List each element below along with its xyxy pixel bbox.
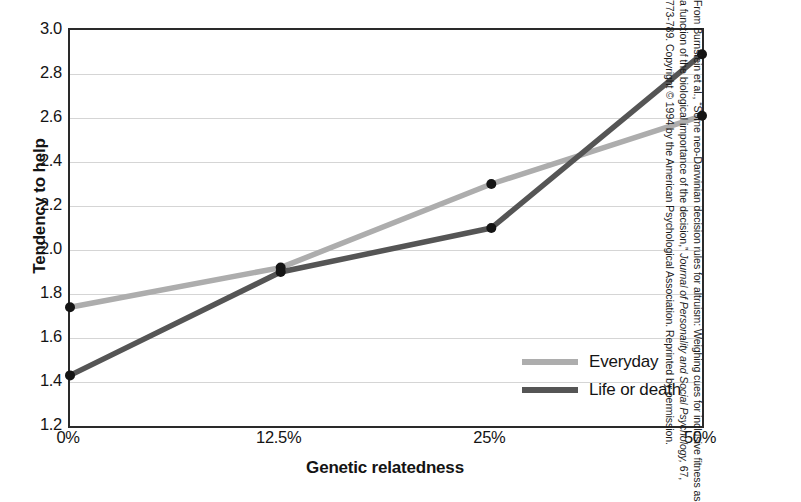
- y-tick-label: 2.6: [18, 108, 62, 125]
- y-tick-label: 2.8: [18, 64, 62, 81]
- data-point-marker: [65, 370, 75, 380]
- y-tick-label: 1.4: [18, 372, 62, 389]
- source-credit-note: From Burnstein et al., “Some neo-Darwini…: [613, 0, 705, 502]
- data-point-marker: [486, 179, 496, 189]
- y-tick-label: 3.0: [18, 20, 62, 37]
- legend-swatch-icon: [522, 387, 578, 393]
- data-point-marker: [65, 302, 75, 312]
- y-axis-tick-labels: 3.02.82.62.42.22.01.81.61.41.2: [18, 28, 62, 424]
- x-tick-label: 0%: [8, 428, 128, 447]
- y-tick-label: 2.4: [18, 152, 62, 169]
- data-point-marker: [276, 267, 286, 277]
- data-point-marker: [486, 223, 496, 233]
- credit-line-2b: Journal: [678, 253, 690, 287]
- credit-line-1: From Burnstein et al., “Some neo-Darwini…: [692, 0, 704, 397]
- x-axis-tick-labels: 0%12.5%25%50%: [68, 428, 702, 454]
- y-tick-label: 1.6: [18, 328, 62, 345]
- y-tick-label: 1.8: [18, 284, 62, 301]
- y-tick-label: 2.0: [18, 240, 62, 257]
- credit-line-3a: of Personality and Social Psychology,: [678, 290, 690, 462]
- chart-figure: Tendency to help 3.02.82.62.42.22.01.81.…: [0, 0, 801, 502]
- x-tick-label: 12.5%: [219, 428, 339, 447]
- series-line-everyday: [70, 116, 702, 307]
- y-tick-label: 2.2: [18, 196, 62, 213]
- legend-swatch-icon: [522, 359, 578, 365]
- credit-line-4: Psychological Association. Reprinted by …: [664, 205, 676, 445]
- x-tick-label: 25%: [429, 428, 549, 447]
- series-line-life-or-death: [70, 54, 702, 375]
- x-axis-title: Genetic relatedness: [68, 458, 702, 478]
